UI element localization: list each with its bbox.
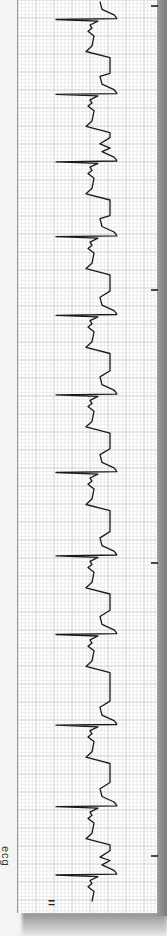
paper-shadow-bottom: [22, 912, 167, 936]
ecg-paper: =: [17, 0, 157, 913]
calibration-mark: =: [48, 896, 55, 910]
paper-shadow-right: [157, 0, 167, 916]
side-label: ecg: [0, 846, 12, 916]
side-label-text: ecg: [0, 846, 12, 867]
ecg-strip-svg: [18, 0, 158, 913]
